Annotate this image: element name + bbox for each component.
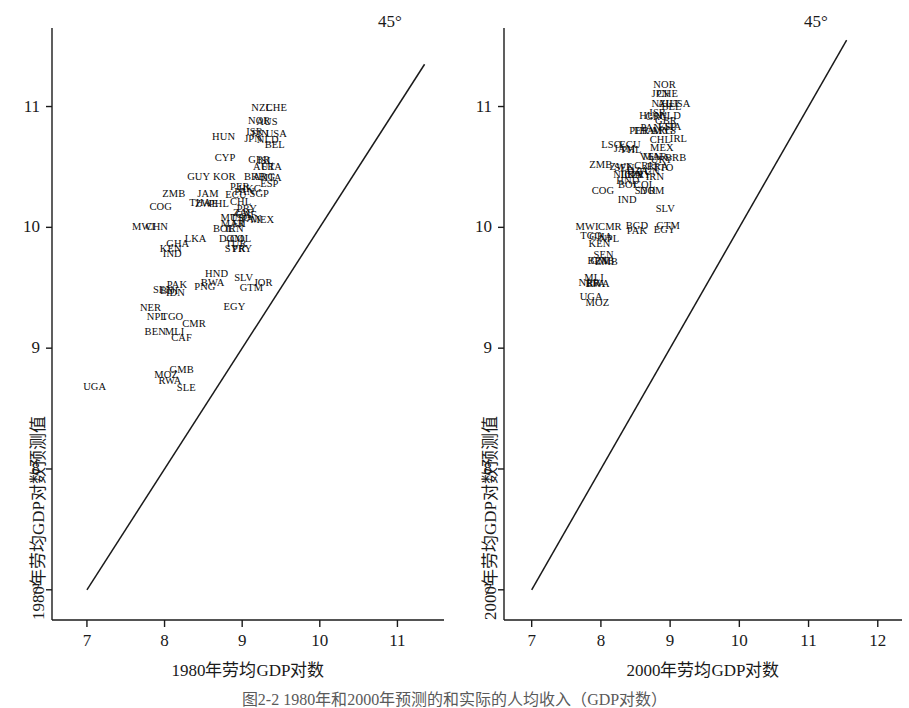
scatter-point-label: ZMB (595, 257, 618, 268)
scatter-point-label: ITA (664, 122, 681, 133)
scatter-point-label: PRY (232, 244, 252, 255)
scatter-point-label: ZMB (162, 188, 185, 199)
y-tick-label: 7 (464, 581, 492, 598)
scatter-point-label: MEX (251, 215, 275, 226)
x-tick-label: 7 (72, 632, 102, 649)
scatter-point-label: CAF (171, 333, 192, 344)
scatter-point-label: BEL (265, 140, 285, 151)
figure-container: 1980年劳均GDP对数预测值 1980年劳均GDP对数 45° 7891011… (0, 0, 909, 708)
scatter-point-label: SLV (656, 204, 675, 215)
scatter-point-label: EGY (223, 302, 245, 313)
scatter-point-label: IRL (670, 134, 687, 145)
scatter-point-label: TGO (161, 312, 183, 323)
scatter-point-label: GTM (656, 221, 680, 232)
x-axis-title-right: 2000年劳均GDP对数 (464, 656, 909, 681)
scatter-point-label: DOM (640, 186, 665, 197)
x-tick-label: 11 (382, 632, 412, 649)
y-tick-label: 10 (464, 218, 492, 235)
y-tick-label: 11 (464, 98, 492, 115)
scatter-point-label: HND (205, 269, 228, 280)
y-tick-label: 10 (12, 218, 40, 235)
scatter-point-label: LKA (185, 234, 207, 245)
scatter-point-label: NLD (659, 111, 681, 122)
x-tick-label: 9 (655, 632, 685, 649)
scatter-point-label: LSO (601, 140, 621, 151)
figure-caption: 图2-2 1980年和2000年预测的和实际的人均收入（GDP对数） (0, 686, 909, 708)
scatter-point-label: HKG (238, 183, 261, 194)
scatter-point-label: CHL (650, 135, 671, 146)
scatter-point-label: JOR (254, 278, 273, 289)
scatter-point-label: BGD (626, 221, 648, 232)
reference-line-label-right: 45° (804, 12, 828, 32)
scatter-point-label: BRB (665, 153, 686, 164)
x-tick-label: 8 (150, 632, 180, 649)
scatter-point-label: ZMB (589, 159, 612, 170)
scatter-point-label: JAM (197, 188, 218, 199)
x-axis-title-left: 1980年劳均GDP对数 (12, 656, 484, 681)
scatter-point-label: KEN (589, 239, 611, 250)
scatter-point-label: CMR (182, 319, 206, 330)
scatter-point-label: RWA (587, 279, 610, 290)
scatter-point-label: CHN (146, 222, 168, 233)
scatter-point-label: NOR (653, 80, 675, 91)
y-tick-label: 9 (12, 339, 40, 356)
x-tick-label: 12 (863, 632, 893, 649)
chart-panel-right: 2000年劳均GDP对数预测值 2000年劳均GDP对数 45° 7891011… (452, 0, 907, 680)
scatter-point-label: IND (163, 249, 182, 260)
reference-line-label-left: 45° (378, 12, 402, 32)
scatter-point-label: ECU (619, 140, 640, 151)
y-tick-label: 9 (464, 339, 492, 356)
scatter-point-label: IND (618, 194, 637, 205)
scatter-point-label: SEN (614, 163, 634, 174)
scatter-point-label: COG (592, 186, 614, 197)
scatter-point-label: CHE (266, 102, 287, 113)
x-tick-label: 10 (305, 632, 335, 649)
x-tick-label: 10 (724, 632, 754, 649)
scatter-point-label: PAK (167, 280, 187, 291)
scatter-point-label: CYP (215, 153, 236, 164)
scatter-point-label: CHE (657, 89, 678, 100)
scatter-point-label: GUY (187, 171, 210, 182)
scatter-point-label: KOR (213, 171, 235, 182)
scatter-point-label: COG (149, 202, 171, 213)
scatter-point-label: FRA (261, 162, 282, 173)
y-tick-label: 8 (12, 460, 40, 477)
x-tick-label: 8 (586, 632, 616, 649)
scatter-point-label: AUS (256, 117, 277, 128)
y-tick-label: 8 (464, 460, 492, 477)
scatter-point-label: HUN (212, 131, 235, 142)
x-tick-label: 9 (227, 632, 257, 649)
x-tick-label: 11 (794, 632, 824, 649)
scatter-point-label: BEL (661, 101, 681, 112)
y-tick-label: 11 (12, 98, 40, 115)
scatter-point-label: BEN (145, 327, 166, 338)
scatter-point-label: CMR (598, 222, 622, 233)
plot-left-svg (0, 0, 455, 680)
scatter-point-label: PHL (209, 199, 229, 210)
scatter-point-label: MOZ (586, 298, 610, 309)
scatter-point-label: UGA (83, 382, 106, 393)
chart-panel-left: 1980年劳均GDP对数预测值 1980年劳均GDP对数 45° 7891011… (0, 0, 455, 680)
scatter-point-label: ESP (260, 179, 278, 190)
y-tick-label: 7 (12, 581, 40, 598)
scatter-point-label: SLE (177, 383, 196, 394)
x-tick-label: 7 (517, 632, 547, 649)
